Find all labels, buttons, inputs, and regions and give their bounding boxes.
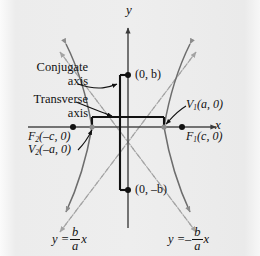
asymptote-left-numerator: b	[70, 226, 80, 239]
co-vertex-top-dot	[125, 72, 131, 78]
asymptote-right-denominator: a	[192, 239, 202, 253]
vertex-right-coords: (a, 0)	[197, 97, 223, 111]
conjugate-axis-label-line1: Conjugate	[8, 61, 88, 74]
focus-left-label: F2(–c, 0)	[28, 130, 70, 144]
vertex-left-coords: (–a, 0)	[39, 142, 71, 156]
asymptote-left-trailing: x	[81, 232, 87, 246]
asymptote-right-sign: –	[185, 232, 191, 246]
conjugate-axis-label-line2: axis	[8, 75, 88, 88]
vertex-right-label: V1(a, 0)	[186, 98, 223, 112]
hyperbola-figure: x y Conjugate axis Transverse axis (0, b…	[0, 0, 260, 256]
asymptote-right-numerator: b	[192, 226, 202, 239]
asymptote-equation-left: y =bax	[52, 226, 87, 252]
asymptote-right-trailing: x	[204, 232, 210, 246]
vertex-right-leader-arrow	[166, 106, 186, 124]
focus-right-label: F1(c, 0)	[186, 130, 222, 144]
focus-right-coords: (c, 0)	[197, 129, 222, 143]
coordinate-axes	[28, 28, 216, 228]
co-vertex-top-label: (0, b)	[135, 68, 161, 80]
focus-left-coords: (–c, 0)	[39, 129, 70, 143]
transverse-axis-label-line2: axis	[2, 107, 88, 120]
hyperbola-plot	[0, 0, 260, 256]
co-vertex-bottom-label: (0, –b)	[135, 183, 167, 195]
vertex-left-dot	[89, 124, 94, 129]
asymptote-left-denominator: a	[70, 239, 80, 253]
vertex-right-dot	[161, 124, 166, 129]
asymptote-equation-right: y =–bax	[168, 226, 209, 252]
focus-left-dot	[70, 124, 76, 130]
vertex-left-label: V2(–a, 0)	[28, 143, 71, 157]
asymptote-left-fraction: ba	[70, 226, 80, 252]
asymptote-right-fraction: ba	[192, 226, 202, 252]
focus-right-dot	[179, 124, 185, 130]
right-branch-curve	[164, 44, 190, 212]
asymptote-left-lhs: y =	[52, 232, 69, 246]
transverse-axis-label-line1: Transverse	[2, 93, 88, 106]
y-axis-label: y	[126, 3, 132, 16]
co-vertex-bottom-dot	[125, 187, 131, 193]
asymptote-right-lhs: y =	[168, 232, 185, 246]
